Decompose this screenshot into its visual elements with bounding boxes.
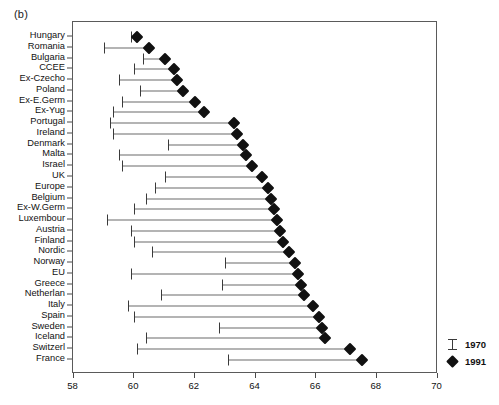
marker-1991	[131, 31, 144, 44]
marker-1991	[355, 354, 368, 367]
marker-1991	[316, 321, 329, 334]
marker-1970	[131, 225, 132, 236]
marker-1970	[222, 279, 223, 290]
range-connector	[131, 273, 298, 274]
category-label: Ex-W.Germ	[17, 204, 65, 213]
category-label: Finland	[35, 236, 66, 245]
x-axis-tick	[255, 373, 256, 378]
category-label: Italy	[48, 301, 65, 310]
x-axis-ticklabel: 70	[431, 380, 442, 391]
series-layer	[73, 22, 438, 374]
marker-1970	[119, 75, 120, 86]
category-label: Ex-E.Germ	[19, 96, 65, 105]
marker-1991	[267, 203, 280, 216]
marker-1991	[313, 311, 326, 324]
range-connector	[165, 176, 262, 177]
marker-1991	[255, 171, 268, 184]
category-label: Poland	[36, 85, 65, 94]
category-label: Europe	[35, 182, 65, 191]
x-axis-tick	[376, 373, 377, 378]
marker-1991	[170, 74, 183, 87]
category-label: Netherlan	[25, 290, 65, 299]
marker-1970	[110, 118, 111, 129]
range-connector	[137, 349, 349, 350]
marker-1970	[143, 53, 144, 64]
range-connector	[146, 198, 270, 199]
marker-1970	[146, 193, 147, 204]
category-label: Israel	[42, 161, 65, 170]
marker-1970	[168, 139, 169, 150]
range-connector	[131, 230, 280, 231]
x-axis-tick	[73, 373, 74, 378]
category-label: Greece	[35, 279, 66, 288]
range-connector	[110, 123, 234, 124]
category-label: Denmark	[27, 139, 65, 148]
legend-item-1991: 1991	[443, 355, 499, 369]
range-connector	[168, 144, 244, 145]
marker-1991	[319, 332, 332, 345]
category-label: CCEE	[39, 64, 65, 73]
range-connector	[122, 101, 195, 102]
diamond-icon	[446, 355, 459, 368]
range-connector	[219, 327, 322, 328]
range-connector	[225, 263, 295, 264]
range-connector	[122, 166, 252, 167]
range-connector	[152, 252, 289, 253]
range-connector	[134, 316, 319, 317]
category-label: Ireland	[37, 128, 65, 137]
range-connector	[113, 133, 237, 134]
category-label: Iceland	[35, 333, 65, 342]
legend-label-1991: 1991	[465, 356, 486, 367]
category-label: Norway	[33, 257, 65, 266]
marker-1991	[261, 181, 274, 194]
category-label: Belgium	[31, 193, 65, 202]
range-connector	[134, 241, 283, 242]
marker-1970	[122, 161, 123, 172]
marker-1970	[134, 64, 135, 75]
marker-1991	[188, 95, 201, 108]
x-axis-tick	[133, 373, 134, 378]
x-axis-ticklabel: 66	[310, 380, 321, 391]
marker-1970	[152, 247, 153, 258]
marker-1970	[122, 96, 123, 107]
marker-1991	[343, 343, 356, 356]
category-label: UK	[52, 171, 65, 180]
marker-1970	[128, 301, 129, 312]
marker-1970	[161, 290, 162, 301]
ibeam-icon	[448, 339, 457, 350]
x-axis: 58606264666870	[72, 373, 437, 401]
range-connector	[228, 360, 361, 361]
marker-1970	[131, 268, 132, 279]
plot-frame	[72, 21, 437, 373]
range-connector	[107, 220, 277, 221]
marker-1970	[134, 236, 135, 247]
marker-1991	[228, 117, 241, 130]
marker-1970	[137, 344, 138, 355]
marker-1991	[176, 84, 189, 97]
category-label: Switzerl	[32, 344, 65, 353]
marker-1991	[270, 214, 283, 227]
range-connector	[161, 295, 304, 296]
dumbbell-chart-figure: (b) HungaryRomaniaBulgariaCCEEEx-CzechoP…	[0, 0, 499, 405]
marker-1970	[107, 215, 108, 226]
category-label: EU	[52, 268, 65, 277]
marker-1991	[292, 267, 305, 280]
x-axis-ticklabel: 68	[371, 380, 382, 391]
marker-1970	[219, 322, 220, 333]
range-connector	[146, 338, 325, 339]
category-axis: HungaryRomaniaBulgariaCCEEEx-CzechoPolan…	[0, 21, 72, 373]
marker-1970	[119, 150, 120, 161]
marker-1970	[165, 171, 166, 182]
range-connector	[119, 155, 246, 156]
panel-label: (b)	[14, 8, 28, 20]
marker-1991	[295, 278, 308, 291]
marker-1991	[246, 160, 259, 173]
range-connector	[222, 284, 301, 285]
x-axis-tick	[315, 373, 316, 378]
chart-legend: 1970 1991	[443, 338, 499, 378]
marker-1970	[113, 107, 114, 118]
category-label: Ex-Yug	[35, 107, 65, 116]
marker-1970	[104, 42, 105, 53]
legend-item-1970: 1970	[443, 338, 499, 352]
marker-1991	[273, 224, 286, 237]
